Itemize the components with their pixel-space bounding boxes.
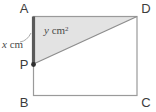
- vertex-label-b: B: [20, 95, 29, 110]
- point-marker-p: [31, 62, 36, 67]
- length-label-x: x cm: [1, 38, 24, 50]
- area-unit-cm: cm: [52, 24, 66, 36]
- area-unit-exponent: 2: [65, 25, 69, 33]
- vertex-label-p: P: [20, 57, 29, 72]
- geometry-diagram: A D B C P x cm y cm2: [0, 0, 156, 112]
- vertex-label-d: D: [141, 1, 150, 16]
- diagram-canvas: A D B C P x cm y cm2: [0, 0, 156, 112]
- length-unit-cm: cm: [10, 38, 24, 50]
- vertex-label-c: C: [141, 95, 150, 110]
- vertex-label-a: A: [20, 1, 29, 16]
